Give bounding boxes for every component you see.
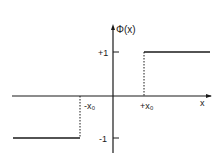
x-tick-label-plus-x0: +x₀ (140, 101, 154, 111)
x-axis-arrow (206, 94, 212, 98)
function-label: Φ(x) (116, 24, 136, 35)
y-axis-arrow (111, 24, 115, 30)
x-axis-label: x (200, 98, 205, 108)
x-tick-label-minus-x0: -x₀ (84, 101, 95, 111)
y-tick-label-plus-one: +1 (98, 48, 108, 58)
y-tick-label-minus-one: -1 (99, 134, 107, 144)
step-function-diagram: Φ(x) +1 -1 -x₀ +x₀ x (0, 0, 222, 157)
